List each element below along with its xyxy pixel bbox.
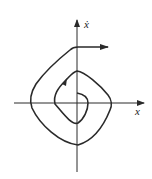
phase-portrait-diagram: ẋ x (0, 0, 152, 179)
spiral-trajectory (31, 47, 112, 145)
x-axis-label: x (134, 105, 140, 117)
y-axis-label: ẋ (83, 18, 89, 30)
exit-arrow-icon (100, 44, 109, 50)
direction-arrow-icon (62, 78, 67, 86)
